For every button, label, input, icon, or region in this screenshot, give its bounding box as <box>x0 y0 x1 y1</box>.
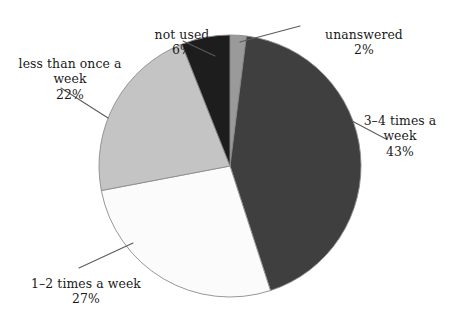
slice-label-unanswered: unanswered 2% <box>306 11 422 73</box>
slice-label-text-not-used: not used <box>155 27 210 42</box>
slice-label-less-than-once-a-week: less than once a week 22% <box>4 40 136 118</box>
slice-label-1-2-times-a-week: 1–2 times a week 27% <box>6 260 166 314</box>
slice-label-text-less-than-once-a-week: less than once a week <box>19 56 122 87</box>
slice-label-text-1-2-times-a-week: 1–2 times a week <box>31 276 141 291</box>
slice-value-less-than-once-a-week: 22% <box>4 87 136 103</box>
slice-label-not-used: not used 6% <box>130 11 234 73</box>
pie-slices-group <box>99 35 361 297</box>
slice-label-3-4-times-a-week: 3–4 times a week 43% <box>352 97 448 175</box>
slice-label-text-3-4-times-a-week: 3–4 times a week <box>364 113 437 144</box>
slice-value-not-used: 6% <box>130 42 234 58</box>
pie-chart: less than once a week 22% not used 6% un… <box>0 0 450 314</box>
leader-line-unanswered <box>240 26 300 42</box>
slice-value-1-2-times-a-week: 27% <box>6 291 166 307</box>
slice-value-3-4-times-a-week: 43% <box>352 144 448 160</box>
slice-value-unanswered: 2% <box>306 42 422 58</box>
slice-label-text-unanswered: unanswered <box>325 27 403 42</box>
